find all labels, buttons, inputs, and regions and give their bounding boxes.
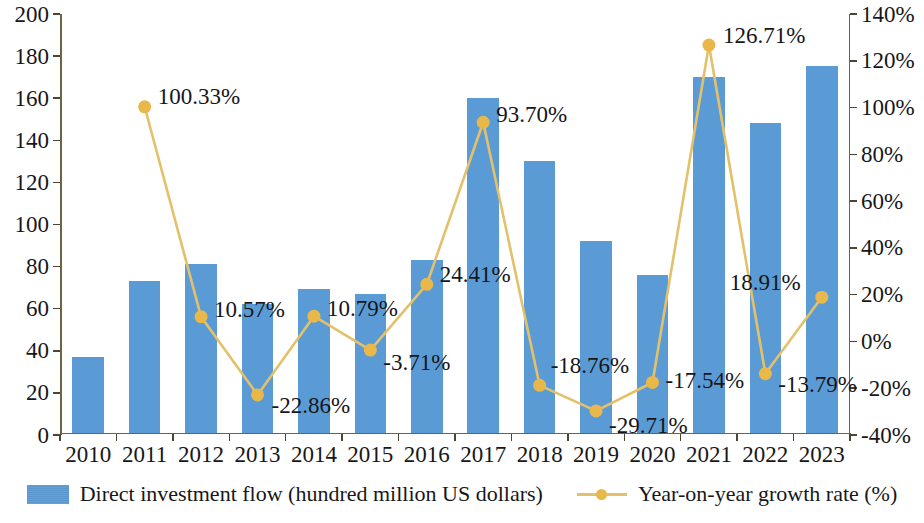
- x-axis-tick: [736, 434, 738, 441]
- data-point-label: 93.70%: [496, 103, 567, 126]
- right-axis-tick: [850, 434, 857, 436]
- combo-chart: 020406080100120140160180200 -40%-20%0%20…: [0, 0, 924, 523]
- x-axis-tick: [229, 434, 231, 441]
- data-point-label: 18.91%: [730, 271, 801, 294]
- x-axis-tick: [341, 434, 343, 441]
- right-axis-tick: [850, 13, 857, 15]
- right-axis-tick-label: 100%: [861, 96, 915, 119]
- left-axis-tick: [53, 97, 60, 99]
- x-axis-tick: [793, 434, 795, 441]
- bar[interactable]: [129, 281, 161, 433]
- right-axis-tick-label: -40%: [861, 424, 911, 447]
- left-axis-tick: [53, 13, 60, 15]
- x-axis-label: 2023: [794, 442, 850, 467]
- data-point-label: 10.79%: [327, 297, 398, 320]
- left-axis-line: [60, 14, 62, 435]
- bar[interactable]: [411, 260, 443, 433]
- bar[interactable]: [524, 161, 556, 433]
- left-axis-tick: [53, 140, 60, 142]
- x-axis-tick: [567, 434, 569, 441]
- legend-item-bar[interactable]: Direct investment flow (hundred million …: [27, 482, 543, 506]
- line-marker[interactable]: [702, 39, 715, 52]
- right-axis-tick: [850, 200, 857, 202]
- data-point-label: -22.86%: [272, 394, 351, 417]
- bar-swatch-icon: [27, 485, 69, 504]
- right-axis-tick-label: -20%: [861, 377, 911, 400]
- left-axis-tick-label: 120: [15, 171, 50, 194]
- left-axis-tick: [53, 182, 60, 184]
- x-axis-tick: [59, 434, 61, 441]
- left-axis-tick-label: 100: [15, 213, 50, 236]
- right-axis-tick-label: 120%: [861, 49, 915, 72]
- left-axis-tick: [53, 224, 60, 226]
- right-axis-tick-label: 0%: [861, 330, 892, 353]
- left-axis-tick-label: 60: [26, 297, 49, 320]
- right-axis-tick: [850, 294, 857, 296]
- data-point-label: 24.41%: [440, 263, 511, 286]
- left-axis-tick-label: 200: [15, 3, 50, 26]
- line-marker-swatch-icon: [577, 487, 627, 501]
- line-marker[interactable]: [138, 100, 151, 113]
- data-point-label: -3.71%: [383, 351, 450, 374]
- x-axis-label: 2014: [286, 442, 342, 467]
- left-axis-tick-label: 180: [15, 45, 50, 68]
- legend-item-line[interactable]: Year-on-year growth rate (%): [577, 482, 897, 506]
- right-axis-tick-label: 80%: [861, 143, 903, 166]
- x-axis-label: 2021: [681, 442, 737, 467]
- right-axis-tick-label: 40%: [861, 236, 903, 259]
- data-point-label: -13.79%: [778, 373, 857, 396]
- left-axis-tick: [53, 308, 60, 310]
- left-axis-tick: [53, 392, 60, 394]
- x-axis-label: 2022: [737, 442, 793, 467]
- x-axis-label: 2013: [229, 442, 285, 467]
- left-axis-tick-label: 20: [26, 381, 49, 404]
- x-axis-label: 2015: [342, 442, 398, 467]
- x-axis-tick: [511, 434, 513, 441]
- left-axis-tick-label: 160: [15, 87, 50, 110]
- x-axis-tick: [116, 434, 118, 441]
- plot-area: 020406080100120140160180200 -40%-20%0%20…: [60, 14, 850, 434]
- x-axis-label: 2020: [624, 442, 680, 467]
- bar[interactable]: [580, 241, 612, 433]
- right-axis-tick: [850, 247, 857, 249]
- data-point-label: -18.76%: [551, 354, 630, 377]
- left-axis-tick: [53, 350, 60, 352]
- right-axis-tick: [850, 60, 857, 62]
- right-axis-tick: [850, 107, 857, 109]
- left-axis-tick: [53, 266, 60, 268]
- x-axis-tick: [849, 434, 851, 441]
- right-axis-tick-label: 60%: [861, 190, 903, 213]
- left-axis-tick-label: 140: [15, 129, 50, 152]
- bar[interactable]: [242, 304, 274, 432]
- right-axis-tick-label: 20%: [861, 283, 903, 306]
- x-axis-label: 2011: [116, 442, 172, 467]
- left-axis-tick-label: 80: [26, 255, 49, 278]
- x-axis-label: 2019: [568, 442, 624, 467]
- bar[interactable]: [72, 357, 104, 433]
- legend-label-bar: Direct investment flow (hundred million …: [80, 482, 543, 506]
- left-axis-tick-label: 0: [38, 424, 50, 447]
- x-axis-tick: [398, 434, 400, 441]
- x-axis-label: 2012: [173, 442, 229, 467]
- x-axis-tick: [454, 434, 456, 441]
- x-axis-label: 2010: [60, 442, 116, 467]
- data-point-label: 10.57%: [214, 298, 285, 321]
- legend-label-line: Year-on-year growth rate (%): [638, 482, 897, 506]
- x-axis-label: 2017: [455, 442, 511, 467]
- x-axis-label: 2016: [399, 442, 455, 467]
- right-axis-tick-label: 140%: [861, 3, 915, 26]
- left-axis-tick-label: 40: [26, 339, 49, 362]
- x-axis-tick: [172, 434, 174, 441]
- data-point-label: -17.54%: [666, 369, 745, 392]
- right-axis-tick: [850, 341, 857, 343]
- left-axis-tick: [53, 55, 60, 57]
- data-point-label: -29.71%: [609, 414, 688, 437]
- chart-legend: Direct investment flow (hundred million …: [0, 482, 924, 506]
- right-axis-tick: [850, 154, 857, 156]
- data-point-label: 100.33%: [158, 85, 240, 108]
- x-axis-tick: [285, 434, 287, 441]
- bar[interactable]: [185, 264, 217, 432]
- bar[interactable]: [637, 275, 669, 433]
- x-axis-label: 2018: [511, 442, 567, 467]
- data-point-label: 126.71%: [723, 24, 805, 47]
